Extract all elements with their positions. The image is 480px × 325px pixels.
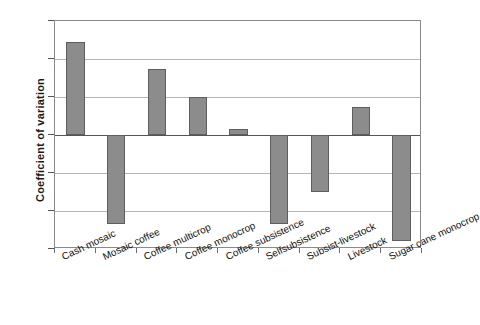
bar xyxy=(270,135,288,224)
x-axis-tick-mark xyxy=(339,248,340,253)
bar xyxy=(229,129,247,135)
gridline xyxy=(55,97,420,98)
x-axis-tick-mark xyxy=(136,248,137,253)
bar xyxy=(148,69,166,136)
x-axis-tick-mark xyxy=(54,248,55,253)
bar xyxy=(352,107,370,136)
bar xyxy=(189,97,207,135)
bar xyxy=(392,135,410,241)
x-axis-tick-mark xyxy=(299,248,300,253)
x-axis-tick-mark xyxy=(217,248,218,253)
x-axis-tick-mark xyxy=(95,248,96,253)
x-axis-tick-mark xyxy=(380,248,381,253)
x-axis-tick-mark xyxy=(176,248,177,253)
bar xyxy=(107,135,125,224)
y-axis-title: Coefficient of variation xyxy=(34,40,46,240)
bar xyxy=(66,42,84,135)
plot-area xyxy=(54,20,421,248)
x-axis-tick-mark xyxy=(421,248,422,253)
gridline xyxy=(55,59,420,60)
bar xyxy=(311,135,329,192)
x-axis-tick-mark xyxy=(258,248,259,253)
